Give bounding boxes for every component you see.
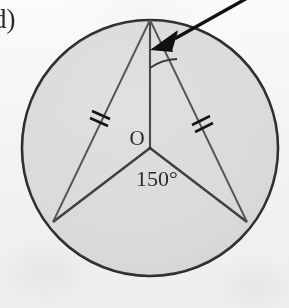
geometry-figure: O 150° d) — [0, 0, 289, 308]
center-label: O — [129, 126, 144, 150]
central-angle-label: 150° — [136, 166, 178, 191]
item-label: d) — [0, 6, 16, 33]
circle-diagram: O 150° — [0, 0, 289, 308]
center-point-marker — [148, 146, 151, 149]
